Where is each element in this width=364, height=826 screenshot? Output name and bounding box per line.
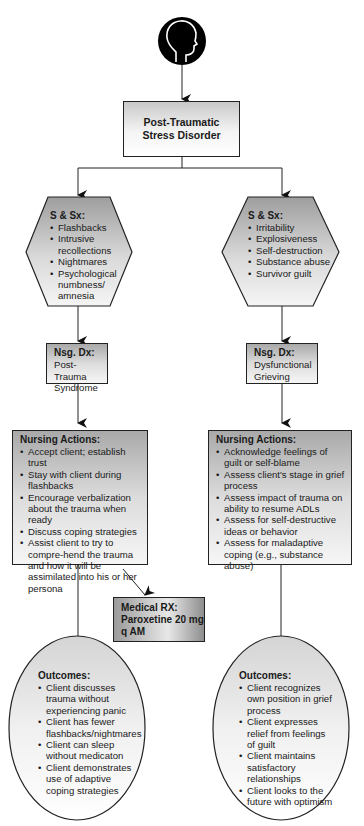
outcome-item: Client maintains satisfactory relationsh… [239, 750, 335, 784]
symptom-item: Explosiveness [248, 233, 338, 244]
symptom-item: Survivor guilt [248, 268, 338, 279]
right-nursing-diagnosis-box: Nsg. Dx: Dysfunctional Grieving [246, 343, 318, 384]
right-outcomes-header: Outcomes: [239, 670, 335, 682]
outcome-item: Client recognizes own position in grief … [239, 682, 335, 716]
symptom-item: Psychological numbness/ amnesia [50, 268, 132, 302]
ptsd-care-map: Post-Traumatic Stress Disorder S & Sx: F… [0, 0, 364, 826]
right-nursing-actions-box: Nursing Actions: Acknowledge feelings of… [208, 430, 352, 565]
action-item: Assess impact of trauma on ability to re… [216, 492, 347, 515]
symptom-item: Irritability [248, 222, 338, 233]
left-outcomes-header: Outcomes: [38, 670, 138, 682]
action-item: Encourage verbalization about the trauma… [20, 492, 143, 526]
symptom-item: Self-destruction [248, 245, 338, 256]
outcome-item: Client expresses relief from feelings of… [239, 716, 335, 750]
outcome-item: Client discusses trauma without experien… [38, 682, 138, 716]
symptom-item: Flashbacks [50, 222, 132, 233]
action-item: Assist client to try to compre-hend the … [20, 537, 143, 594]
symptom-item: Substance abuse [248, 256, 338, 267]
outcome-item: Client demonstrates use of adaptive copi… [38, 762, 138, 796]
medical-rx-text: Paroxetine 20 mg q AM [121, 614, 204, 638]
left-nsg-dx-header: Nsg. Dx: [54, 347, 107, 359]
left-nursing-diagnosis-box: Nsg. Dx: Post-Trauma Syndrome [46, 343, 108, 384]
right-symptoms-header: S & Sx: [248, 210, 338, 222]
left-actions-header: Nursing Actions: [20, 434, 143, 446]
action-item: Assess for maladaptive coping (e.g., sub… [216, 537, 347, 571]
action-item: Accept client; establish trust [20, 446, 143, 469]
action-item: Discuss coping strategies [20, 526, 143, 537]
left-outcomes: Outcomes: Client discusses trauma withou… [38, 670, 138, 796]
medical-rx-header: Medical RX: [121, 602, 204, 614]
outcome-item: Client looks to the future with optimism [239, 785, 335, 808]
outcome-item: Client has fewer flashbacks/nightmares [38, 716, 138, 739]
root-diagnosis-box: Post-Traumatic Stress Disorder [123, 101, 240, 157]
symptom-item: Intrusive recollections [50, 233, 132, 256]
left-symptoms: S & Sx: Flashbacks Intrusive recollectio… [50, 210, 132, 302]
right-symptoms: S & Sx: Irritability Explosiveness Self-… [248, 210, 338, 279]
right-outcomes: Outcomes: Client recognizes own position… [239, 670, 335, 807]
right-nsg-dx-text: Dysfunctional Grieving [254, 359, 317, 382]
head-profile-icon [158, 17, 206, 65]
left-symptoms-header: S & Sx: [50, 210, 132, 222]
left-nsg-dx-text: Post-Trauma Syndrome [54, 359, 107, 394]
right-actions-header: Nursing Actions: [216, 434, 347, 446]
left-nursing-actions-box: Nursing Actions: Accept client; establis… [12, 430, 148, 565]
action-item: Stay with client during flashbacks [20, 469, 143, 492]
symptom-item: Nightmares [50, 256, 132, 267]
action-item: Acknowledge feelings of guilt or self-bl… [216, 446, 347, 469]
action-item: Assess client's stage in grief process [216, 469, 347, 492]
medical-rx-box: Medical RX: Paroxetine 20 mg q AM [113, 597, 205, 642]
action-item: Assess for self-destructive ideas or beh… [216, 514, 347, 537]
outcome-item: Client can sleep without medicaton [38, 739, 138, 762]
right-nsg-dx-header: Nsg. Dx: [254, 347, 317, 359]
root-title: Post-Traumatic Stress Disorder [130, 116, 233, 142]
